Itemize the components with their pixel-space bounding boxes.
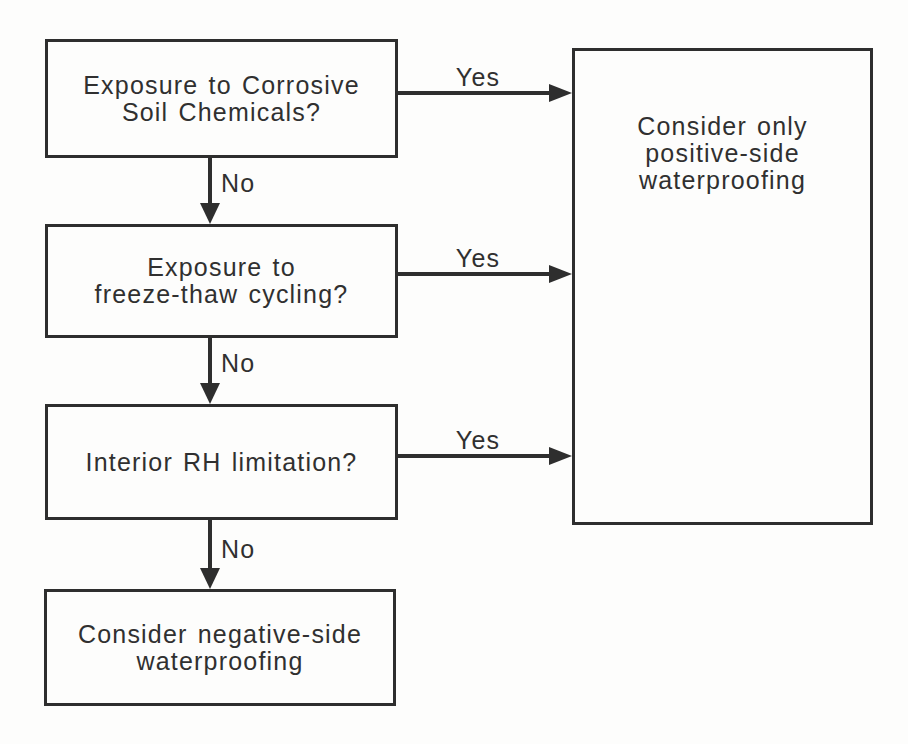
edge-rh-yes-line — [397, 454, 550, 458]
node-q-corrosive-soil: Exposure to Corrosive Soil Chemicals? — [45, 39, 398, 158]
edge-corrosive-no-line — [208, 156, 212, 204]
node-text-line: Exposure to Corrosive — [83, 72, 360, 99]
arrowhead-right-icon — [549, 84, 572, 102]
node-text-line: freeze-thaw cycling? — [95, 281, 349, 308]
node-outcome-positive-side: Consider only positive-side waterproofin… — [572, 48, 873, 525]
edge-freeze-yes-label: Yes — [438, 245, 518, 272]
node-text-line: Interior RH limitation? — [86, 449, 358, 476]
node-text-line: positive-side — [645, 140, 800, 167]
node-text-line: Consider negative-side — [78, 621, 362, 648]
node-outcome-negative-side: Consider negative-side waterproofing — [44, 589, 396, 706]
node-text-line: Consider only — [637, 113, 807, 140]
node-q-freeze-thaw: Exposure to freeze-thaw cycling? — [45, 224, 398, 338]
flowchart-canvas: Exposure to Corrosive Soil Chemicals? Ex… — [0, 0, 908, 744]
node-text-line: waterproofing — [639, 167, 806, 194]
node-text-line: waterproofing — [136, 648, 303, 675]
edge-rh-no-line — [208, 518, 212, 569]
edge-freeze-no-label: No — [221, 350, 255, 377]
edge-corrosive-no-label: No — [221, 170, 255, 197]
arrowhead-down-icon — [200, 203, 220, 224]
node-q-interior-rh: Interior RH limitation? — [45, 404, 398, 520]
edge-rh-yes-label: Yes — [438, 427, 518, 454]
arrowhead-down-icon — [200, 383, 220, 404]
edge-corrosive-yes-line — [397, 91, 550, 95]
arrowhead-right-icon — [549, 447, 572, 465]
arrowhead-down-icon — [200, 568, 220, 589]
node-text-line: Soil Chemicals? — [122, 99, 321, 126]
edge-corrosive-yes-label: Yes — [438, 64, 518, 91]
edge-freeze-no-line — [208, 336, 212, 384]
node-text-line: Exposure to — [147, 254, 296, 281]
edge-rh-no-label: No — [221, 536, 255, 563]
arrowhead-right-icon — [549, 265, 572, 283]
edge-freeze-yes-line — [397, 272, 550, 276]
